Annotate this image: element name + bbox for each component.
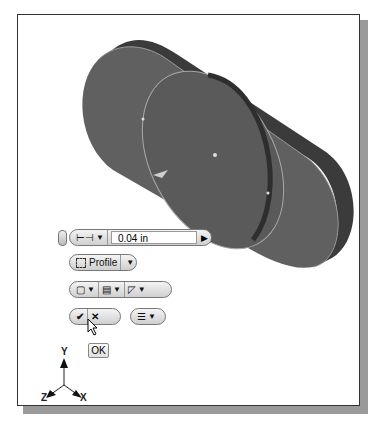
chevron-down-icon: ▼ xyxy=(113,285,121,294)
ok-tooltip: OK xyxy=(88,343,109,358)
drag-handle[interactable] xyxy=(58,230,67,246)
checkmark-icon: ✔ xyxy=(76,311,84,322)
dimension-icon: ⊢⊣ xyxy=(76,232,94,243)
mouse-cursor-icon xyxy=(87,318,99,336)
options-dropdown[interactable]: ☰▼ xyxy=(130,308,166,325)
profile-label: Profile xyxy=(89,257,117,268)
play-arrow-icon[interactable]: ▶ xyxy=(201,233,208,243)
distance-type-dropdown[interactable]: ⊢⊣▼ xyxy=(73,230,108,245)
chevron-down-icon: ▼ xyxy=(96,233,104,242)
chevron-down-icon: ▼ xyxy=(138,285,146,294)
z-axis-label: Z xyxy=(41,392,47,403)
profile-select-icon xyxy=(76,258,86,268)
cube-icon: ▢ xyxy=(76,284,85,295)
output-dropdown[interactable]: ▤▼ xyxy=(99,282,125,297)
profile-control[interactable]: Profile ▼ xyxy=(69,254,137,271)
options-button[interactable]: ☰▼ xyxy=(134,309,159,324)
extrude-output-icon: ▤ xyxy=(102,284,111,295)
output-options[interactable]: ▢▼ ▤▼ ◸▼ xyxy=(69,281,172,298)
y-axis-label: Y xyxy=(61,346,68,357)
y-axis-arrow-icon xyxy=(60,358,68,368)
profile-button[interactable]: Profile xyxy=(73,255,121,270)
graphics-viewport[interactable]: Y Z X xyxy=(17,14,360,406)
direction-icon: ◸ xyxy=(128,284,136,295)
view-triad xyxy=(38,350,108,405)
direction-dropdown[interactable]: ◸▼ xyxy=(125,282,149,297)
distance-input[interactable]: 0.04 in xyxy=(111,231,197,244)
profile-dropdown[interactable]: ▼ xyxy=(121,255,137,270)
x-axis-label: X xyxy=(80,392,87,403)
chevron-down-icon: ▼ xyxy=(126,258,134,267)
ok-button[interactable]: ✔ xyxy=(73,309,88,324)
3d-model[interactable] xyxy=(18,15,360,406)
chevron-down-icon: ▼ xyxy=(148,312,156,321)
list-options-icon: ☰ xyxy=(137,311,146,322)
distance-control[interactable]: ⊢⊣▼ 0.04 in ▶ xyxy=(69,229,212,246)
solid-dropdown[interactable]: ▢▼ xyxy=(73,282,99,297)
chevron-down-icon: ▼ xyxy=(87,285,95,294)
